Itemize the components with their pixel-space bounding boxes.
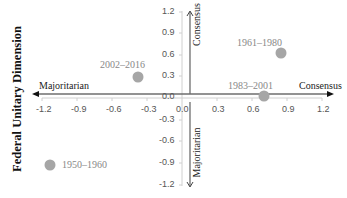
scatter-chart: Federal Unitary Dimension -1.2 -0.9 -0.6…	[0, 0, 347, 198]
x-tick-label: -0.9	[71, 104, 87, 114]
point-label-1950-1960: 1950–1960	[62, 159, 107, 170]
y-tick-label: -1.2	[159, 179, 175, 189]
point-label-1983-2001: 1983–2001	[228, 80, 273, 91]
y-tick-label: -0.3	[159, 114, 175, 124]
y-tick-label: 0.6	[162, 49, 175, 59]
data-point-1983-2001	[259, 91, 270, 102]
x-tick-label: -0.3	[141, 104, 157, 114]
y-negative-label: Majoritarian	[191, 121, 202, 185]
y-tick-label: 0.3	[162, 70, 175, 80]
arrow-left-icon	[32, 91, 39, 97]
y-tick-label: 0.9	[162, 27, 175, 37]
x-tick-label: -1.2	[36, 104, 52, 114]
x-tick-label: 0.6	[247, 104, 260, 114]
data-point-1961-1980	[276, 48, 287, 59]
x-negative-label: Majoritarian	[39, 80, 89, 91]
point-label-1961-1980: 1961–1980	[237, 37, 282, 48]
x-positive-label: Consensus	[299, 80, 342, 91]
data-point-1950-1960	[45, 160, 56, 171]
point-label-2002-2016: 2002–2016	[100, 59, 145, 70]
x-tick-label: -0.6	[106, 104, 122, 114]
x-tick-label: 0.9	[282, 104, 295, 114]
y-tick-label: -0.6	[159, 135, 175, 145]
arrow-right-icon	[327, 91, 334, 97]
y-tick-label: 1.2	[162, 6, 175, 16]
y-axis-title: Federal Unitary Dimension	[10, 19, 26, 179]
y-positive-label: Consensus	[191, 0, 202, 50]
x-tick-label: 0.0	[176, 104, 189, 114]
y-tick-label: 0.0	[162, 91, 175, 101]
x-tick-label: 0.3	[212, 104, 225, 114]
y-tick-label: -0.9	[159, 157, 175, 167]
data-point-2002-2016	[133, 72, 144, 83]
x-tick-label: 1.2	[317, 104, 330, 114]
